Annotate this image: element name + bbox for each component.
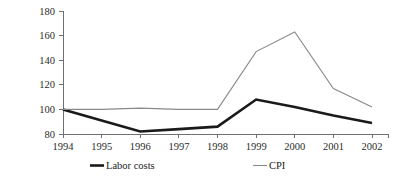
- x-tick-label: 1994: [53, 141, 75, 152]
- x-tick-label: 2000: [284, 141, 305, 152]
- y-tick-label: 120: [39, 79, 55, 90]
- series-lines: [63, 32, 372, 132]
- y-tick-label: 180: [39, 6, 55, 17]
- y-axis: 80100120140160180: [39, 6, 63, 140]
- line-chart: 80100120140160180 1994199519961997199819…: [0, 0, 409, 181]
- x-axis: 199419951996199719981999200020012002: [53, 134, 389, 152]
- series-line-labor-costs: [63, 100, 372, 132]
- x-tick-label: 1999: [246, 141, 267, 152]
- x-tick-label: 1997: [168, 141, 189, 152]
- x-tick-label: 2001: [323, 141, 344, 152]
- x-tick-label: 1995: [91, 141, 112, 152]
- x-tick-label: 1998: [207, 141, 228, 152]
- y-tick-label: 140: [39, 55, 55, 66]
- y-tick-label: 80: [45, 129, 56, 140]
- chart-legend: Labor costsCPI: [90, 160, 286, 171]
- y-tick-label: 160: [39, 30, 55, 41]
- y-tick-label: 100: [39, 104, 55, 115]
- x-tick-label: 1996: [130, 141, 151, 152]
- legend-label-cpi: CPI: [269, 160, 286, 171]
- x-tick-label: 2002: [362, 141, 383, 152]
- series-line-cpi: [63, 32, 372, 109]
- legend-label-labor-costs: Labor costs: [106, 160, 155, 171]
- chart-canvas: 80100120140160180 1994199519961997199819…: [0, 0, 409, 181]
